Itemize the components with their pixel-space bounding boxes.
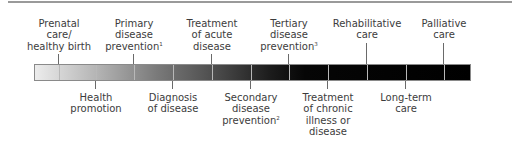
top-label: Primarydiseaseprevention1 (89, 18, 179, 52)
footnote-marker: 3 (314, 41, 318, 47)
label-line: care (361, 103, 451, 114)
label-line: Primary (89, 18, 179, 29)
label-text: care (433, 29, 455, 40)
label-text: Palliative (422, 18, 467, 29)
continuum-bar (34, 64, 471, 81)
top-rule (8, 1, 512, 3)
bar-divider (328, 65, 329, 80)
bar-divider (173, 65, 174, 80)
bar-divider (367, 65, 368, 80)
label-line: Palliative (399, 18, 489, 29)
label-line: Tertiary (244, 18, 334, 29)
label-text: care/ (46, 29, 71, 40)
tick-mark (443, 43, 444, 64)
tick-mark (327, 81, 328, 89)
label-text: prevention (105, 41, 159, 52)
label-text: Treatment (187, 18, 238, 29)
label-line: of disease (128, 103, 218, 114)
label-line: Diagnosis (128, 92, 218, 103)
label-text: Treatment (303, 92, 354, 103)
label-line: prevention1 (89, 41, 179, 52)
label-line: disease (89, 29, 179, 40)
tick-mark (405, 81, 406, 89)
footnote-marker: 1 (159, 41, 163, 47)
bottom-label: Long-termcare (361, 92, 451, 115)
tick-mark (250, 81, 251, 89)
label-text: disease (115, 29, 153, 40)
label-text: illness or (306, 115, 351, 126)
label-text: Secondary (225, 92, 278, 103)
bar-divider (251, 65, 252, 80)
label-text: promotion (70, 103, 121, 114)
label-line: Long-term (361, 92, 451, 103)
label-text: disease (309, 126, 347, 137)
bar-divider (59, 65, 60, 80)
bar-divider (134, 65, 135, 80)
tick-mark (288, 54, 289, 64)
label-text: disease (193, 41, 231, 52)
label-text: of chronic (303, 103, 352, 114)
tick-mark (133, 54, 134, 64)
tick-mark (58, 54, 59, 64)
label-text: of disease (148, 103, 199, 114)
label-text: Primary (115, 18, 154, 29)
label-text: disease (232, 103, 270, 114)
tick-mark (366, 43, 367, 64)
label-text: care (395, 103, 417, 114)
tick-mark (211, 54, 212, 64)
bar-divider (444, 65, 445, 80)
label-line: disease (244, 29, 334, 40)
bottom-label: Diagnosisof disease (128, 92, 218, 115)
label-text: Rehabilitative (333, 18, 402, 29)
label-text: Prenatal (38, 18, 79, 29)
top-label: Tertiarydiseaseprevention3 (244, 18, 334, 52)
label-line: care (399, 29, 489, 40)
label-text: prevention (222, 115, 276, 126)
label-text: Diagnosis (149, 92, 198, 103)
tick-mark (172, 81, 173, 89)
bar-divider (289, 65, 290, 80)
label-text: Long-term (380, 92, 432, 103)
label-line: prevention3 (244, 41, 334, 52)
label-text: Tertiary (270, 18, 308, 29)
label-line: illness or (283, 115, 373, 126)
label-line: Treatment (283, 92, 373, 103)
bar-divider (212, 65, 213, 80)
label-text: disease (270, 29, 308, 40)
label-text: Health (80, 92, 113, 103)
label-line: disease (283, 126, 373, 137)
label-text: healthy birth (27, 41, 91, 52)
label-text: prevention (260, 41, 314, 52)
label-text: care (356, 29, 378, 40)
footnote-marker: 2 (276, 115, 280, 121)
top-label: Palliativecare (399, 18, 489, 41)
tick-mark (95, 81, 96, 89)
bar-divider (96, 65, 97, 80)
bottom-label: Treatmentof chronicillness ordisease (283, 92, 373, 137)
label-line: of chronic (283, 103, 373, 114)
label-text: of acute (192, 29, 233, 40)
bar-divider (406, 65, 407, 80)
